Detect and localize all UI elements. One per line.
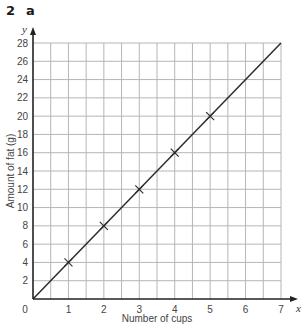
- y-tick-label: 16: [17, 147, 29, 158]
- x-axis-symbol: x: [295, 302, 301, 314]
- y-tick-label: 2: [22, 275, 28, 286]
- x-tick-label: 2: [101, 304, 107, 315]
- y-tick-label: 24: [17, 74, 29, 85]
- y-tick-label: 22: [17, 92, 29, 103]
- x-tick-label: 7: [278, 304, 284, 315]
- y-tick-label: 4: [22, 257, 28, 268]
- y-tick-label: 20: [17, 111, 29, 122]
- origin-label: 0: [22, 304, 28, 315]
- y-tick-label: 12: [17, 184, 29, 195]
- line-chart: 1234567246810121416182022242628 Number o…: [0, 0, 304, 328]
- y-axis-arrow-icon: [30, 27, 36, 35]
- y-tick-label: 10: [17, 202, 29, 213]
- x-axis-label: Number of cups: [122, 313, 193, 324]
- y-axis-symbol: y: [21, 23, 27, 35]
- y-tick-label: 28: [17, 38, 29, 49]
- y-tick-label: 8: [22, 220, 28, 231]
- y-tick-label: 14: [17, 166, 29, 177]
- y-tick-label: 26: [17, 56, 29, 67]
- y-tick-label: 6: [22, 239, 28, 250]
- x-tick-label: 6: [243, 304, 249, 315]
- y-tick-label: 18: [17, 129, 29, 140]
- x-tick-label: 1: [66, 304, 72, 315]
- x-tick-label: 5: [207, 304, 213, 315]
- y-axis-label: Amount of fat (g): [5, 134, 16, 208]
